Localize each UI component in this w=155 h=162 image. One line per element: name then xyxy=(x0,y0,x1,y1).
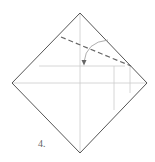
valley-fold-dashed-line xyxy=(61,37,131,66)
fold-arrow-curve xyxy=(84,40,108,62)
step-number-label: 4. xyxy=(38,138,46,149)
fold-arrow-head-icon xyxy=(82,60,87,66)
crease-lines xyxy=(12,13,147,153)
origami-step-diagram xyxy=(0,0,155,162)
